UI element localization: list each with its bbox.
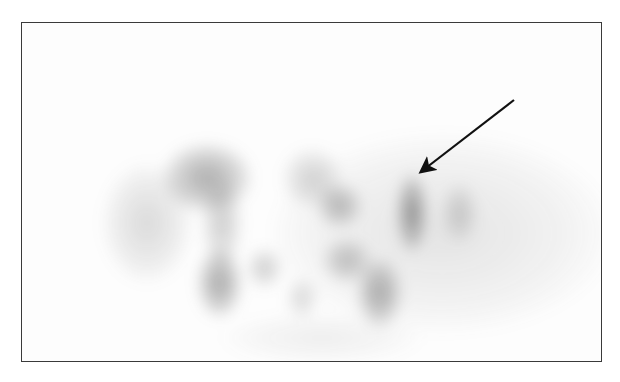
arrow-indicator-icon (0, 0, 620, 382)
